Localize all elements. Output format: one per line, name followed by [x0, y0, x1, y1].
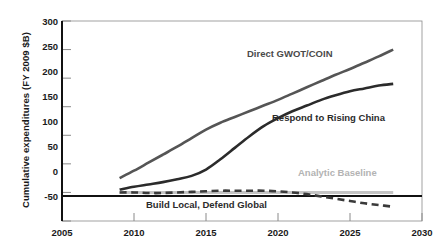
plot-area — [0, 0, 439, 250]
y-axis-ticks — [62, 21, 71, 221]
series-line-direct-gwot-coin — [120, 50, 394, 179]
series-lines — [120, 50, 394, 207]
x-axis-ticks — [62, 213, 422, 221]
series-line-respond-to-rising-china — [120, 84, 394, 190]
chart-container: Cumulative expenditures (FY 2009 $B) 300… — [0, 0, 439, 250]
